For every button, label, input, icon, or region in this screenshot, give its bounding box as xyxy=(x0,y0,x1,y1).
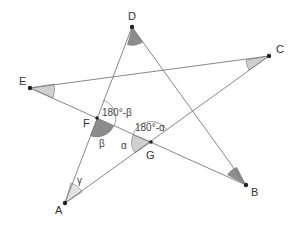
point-d xyxy=(130,25,134,29)
label-b: B xyxy=(251,186,258,198)
angle-label-beta: β xyxy=(99,138,105,149)
angle-label-gamma: γ xyxy=(77,175,82,186)
angle-d-fill xyxy=(127,27,143,46)
label-g: G xyxy=(146,149,155,161)
point-e xyxy=(28,86,32,90)
point-g xyxy=(149,140,153,144)
segment-db xyxy=(132,27,246,185)
angle-label-180-beta: 180°-β xyxy=(102,107,132,118)
segment-eb xyxy=(30,88,246,185)
point-c xyxy=(267,54,271,58)
angle-label-alpha: α xyxy=(121,140,127,151)
point-a xyxy=(63,201,67,205)
point-f xyxy=(95,116,99,120)
label-f: F xyxy=(83,117,90,129)
angle-label-180-alpha: 180°-α xyxy=(135,122,165,133)
segment-ec xyxy=(30,56,269,88)
star-diagram: D C E F G B A γ β α 180°-β 180°-α xyxy=(0,0,293,231)
angle-b-fill xyxy=(227,167,246,185)
label-d: D xyxy=(128,10,136,22)
label-a: A xyxy=(55,204,63,216)
label-e: E xyxy=(19,75,26,87)
label-c: C xyxy=(276,43,284,55)
point-b xyxy=(244,183,248,187)
